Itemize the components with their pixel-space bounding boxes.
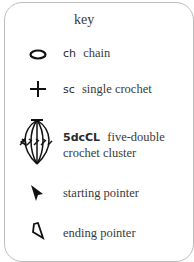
name-starting-pointer: starting pointer xyxy=(63,186,139,201)
filled-pointer-icon xyxy=(29,184,45,202)
name-chain: chain xyxy=(83,46,110,60)
name-crochet-cluster: crochet cluster xyxy=(63,146,136,161)
abbr-ch: ch xyxy=(63,47,76,60)
name-single-crochet: single crochet xyxy=(82,82,152,96)
name-five-double: five-double xyxy=(107,130,165,144)
key-title: key xyxy=(74,12,94,28)
cluster-icon xyxy=(17,118,57,166)
abbr-5dccl: 5dcCL xyxy=(63,131,100,144)
abbr-sc: sc xyxy=(63,83,75,96)
name-ending-pointer: ending pointer xyxy=(63,226,136,241)
oval-icon xyxy=(29,49,47,60)
plus-icon xyxy=(29,80,47,98)
outline-pointer-icon xyxy=(31,222,45,240)
